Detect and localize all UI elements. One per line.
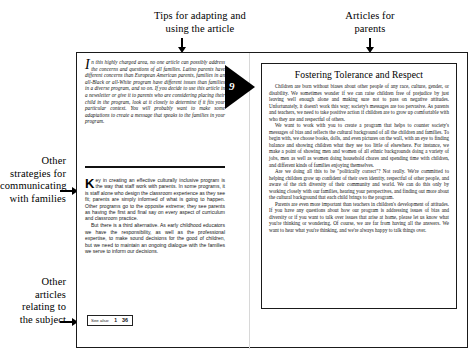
see-also-reference-2[interactable]: 36 xyxy=(122,317,128,323)
see-also-box[interactable]: See also: 1 36 xyxy=(87,315,133,326)
see-also-reference-1[interactable]: 1 xyxy=(114,317,117,323)
page-number: 9 xyxy=(229,80,235,92)
body-dropcap: K xyxy=(85,178,96,189)
callout-articles-for-parents: Articles forparents xyxy=(300,10,440,35)
intro-paragraph: In this highly charged area, no one arti… xyxy=(85,59,225,125)
article-title: Fostering Tolerance and Respect xyxy=(269,69,449,80)
callout-arrow-parents-icon xyxy=(364,38,376,53)
section-rule xyxy=(85,166,225,168)
intro-paragraph-text: n this highly charged area, no one artic… xyxy=(85,59,225,124)
callout-arrow-tips-icon xyxy=(176,38,188,53)
article-paragraph: Children are born without biases about o… xyxy=(269,83,449,122)
callout-other-articles: Otherarticlesrelating tothe subject xyxy=(0,276,66,326)
book-page-spread: In this highly charged area, no one arti… xyxy=(76,52,468,348)
left-column: In this highly charged area, no one arti… xyxy=(85,59,225,341)
article-paragraph: Parents are even more important than tea… xyxy=(269,201,449,234)
callout-tips-for-adapting: Tips for adapting andusing the article xyxy=(120,10,280,35)
callout-other-strategies: Otherstrategies forcommunicatingwith fam… xyxy=(0,155,66,205)
article-paragraph: Are we doing all this to be "politically… xyxy=(269,168,449,201)
body-paragraph-1-text: ey in creating an effective culturally i… xyxy=(85,177,225,221)
article-paragraph: We want to work with you to create a pro… xyxy=(269,122,449,168)
body-paragraph-1: Key in creating an effective culturally … xyxy=(85,177,225,222)
body-paragraph-2: But there is a third alternative. As ear… xyxy=(85,222,225,254)
see-also-label: See also: xyxy=(91,318,109,323)
parent-article-box: Fostering Tolerance and Respect Children… xyxy=(261,63,457,309)
